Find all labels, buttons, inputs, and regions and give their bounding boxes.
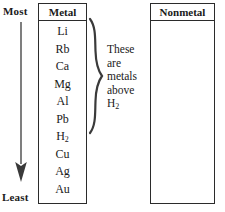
metal-column: Metal Li Rb Ca Mg Al Pb H2 Cu Ag Au	[38, 3, 87, 204]
nonmetal-column-header: Nonmetal	[151, 4, 214, 21]
annotation-line: metals	[107, 70, 151, 84]
annotation-line: are	[107, 57, 151, 71]
list-item: Al	[39, 93, 86, 111]
metal-symbol: Li	[57, 24, 68, 38]
activity-series-diagram: Most Least Metal Li Rb Ca Mg Al Pb H2 Cu…	[0, 0, 225, 212]
list-item: Au	[39, 181, 86, 199]
metal-symbol: Ag	[55, 164, 70, 178]
list-item: Ca	[39, 58, 86, 76]
list-item: Cu	[39, 146, 86, 164]
annotation-line-last: H2	[107, 97, 151, 112]
list-item: Mg	[39, 76, 86, 94]
annotation-line: above	[107, 84, 151, 98]
metal-column-header: Metal	[39, 4, 86, 21]
metal-symbol: Cu	[55, 147, 69, 161]
metal-symbol: H	[56, 129, 65, 143]
list-item: Ag	[39, 163, 86, 181]
metal-column-body: Li Rb Ca Mg Al Pb H2 Cu Ag Au	[39, 21, 86, 198]
list-item: Rb	[39, 41, 86, 59]
nonmetal-column: Nonmetal	[150, 3, 215, 204]
metal-symbol-subscript: 2	[65, 135, 69, 144]
scale-least-label: Least	[2, 191, 29, 203]
brace-annotation: These are metals above H2	[107, 43, 151, 112]
right-curly-brace-icon	[88, 17, 104, 135]
metal-symbol: Pb	[56, 112, 69, 126]
metal-symbol: Ca	[56, 59, 69, 73]
metal-symbol: Au	[55, 182, 70, 196]
down-arrow-icon	[13, 22, 29, 184]
metal-symbol: Rb	[55, 42, 69, 56]
nonmetal-column-body	[151, 21, 214, 23]
list-item: Li	[39, 23, 86, 41]
scale-most-label: Most	[3, 5, 28, 17]
list-item: Pb	[39, 111, 86, 129]
annotation-line: These	[107, 43, 151, 57]
metal-symbol: Mg	[54, 77, 71, 91]
metal-symbol: Al	[57, 94, 69, 108]
annotation-formula-subscript: 2	[115, 102, 119, 111]
list-item: H2	[39, 128, 86, 146]
